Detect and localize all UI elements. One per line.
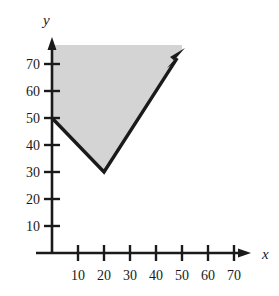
y-tick-label-60: 60 (26, 84, 40, 99)
y-axis-label: y (41, 12, 50, 28)
y-tick-label-40: 40 (26, 138, 40, 153)
x-tick-label-70: 70 (227, 268, 241, 283)
coordinate-plane: 10 20 30 40 50 60 70 10 20 30 40 50 60 7… (0, 0, 279, 296)
y-axis-arrow-icon (48, 37, 57, 50)
x-tick-label-30: 30 (123, 268, 137, 283)
y-tick-label-10: 10 (26, 219, 40, 234)
x-axis (36, 249, 251, 258)
y-tick-label-30: 30 (26, 165, 40, 180)
x-axis-arrow-icon (238, 249, 251, 258)
x-tick-label-50: 50 (175, 268, 189, 283)
x-tick-label-40: 40 (149, 268, 163, 283)
y-tick-label-50: 50 (26, 111, 40, 126)
x-tick-label-10: 10 (71, 268, 85, 283)
x-tick-label-20: 20 (97, 268, 111, 283)
graph-figure: 10 20 30 40 50 60 70 10 20 30 40 50 60 7… (0, 0, 279, 296)
x-axis-label: x (261, 246, 269, 262)
x-tick-label-60: 60 (201, 268, 215, 283)
y-tick-label-70: 70 (26, 57, 40, 72)
y-tick-label-20: 20 (26, 192, 40, 207)
